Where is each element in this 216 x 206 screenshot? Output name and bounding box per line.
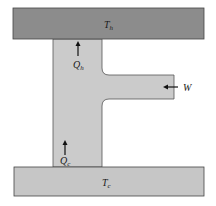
heat-engine-diagram: Th Tc Qh Qc W [0, 0, 216, 206]
work-label: W [183, 82, 193, 93]
engine-body [53, 39, 174, 167]
